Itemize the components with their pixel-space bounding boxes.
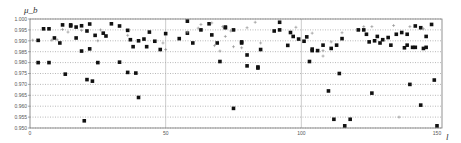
plus-marker	[341, 31, 344, 34]
square-marker	[93, 34, 97, 38]
square-marker	[126, 71, 130, 75]
plus-marker	[61, 28, 64, 31]
square-marker	[395, 32, 399, 36]
y-tick-label: 1.000	[14, 16, 27, 22]
square-marker	[145, 45, 149, 49]
square-marker	[386, 36, 390, 40]
y-axis: 0.9500.9550.9600.9650.9700.9750.9800.985…	[14, 16, 30, 131]
square-marker	[381, 38, 385, 42]
square-marker	[85, 78, 89, 82]
square-marker	[422, 47, 426, 51]
square-marker	[47, 61, 51, 65]
plus-marker	[80, 29, 83, 32]
square-marker	[340, 37, 344, 41]
plus-marker	[294, 26, 297, 29]
square-marker	[232, 107, 236, 111]
square-marker	[432, 78, 436, 82]
square-marker	[370, 91, 374, 95]
square-marker	[327, 89, 331, 93]
square-marker	[207, 22, 211, 26]
square-marker	[210, 33, 214, 37]
square-marker	[36, 39, 40, 43]
square-marker	[58, 41, 62, 45]
plus-marker	[254, 21, 257, 24]
square-marker	[137, 39, 141, 43]
plus-marker	[408, 25, 411, 28]
square-marker	[278, 28, 282, 32]
square-marker	[63, 72, 67, 76]
plus-marker	[99, 28, 102, 31]
square-marker	[365, 32, 369, 36]
square-marker	[110, 22, 114, 26]
square-marker	[389, 43, 393, 47]
plus-marker	[392, 24, 395, 27]
plus-marker	[246, 26, 249, 29]
square-marker	[286, 44, 290, 48]
square-marker	[74, 36, 78, 40]
plus-marker	[96, 39, 99, 42]
x-axis-title: l	[446, 132, 449, 142]
square-marker	[61, 23, 65, 27]
square-marker	[215, 41, 219, 45]
y-tick-label: 0.990	[14, 38, 27, 44]
square-marker	[343, 124, 347, 128]
square-marker	[308, 60, 312, 64]
square-marker	[335, 43, 339, 47]
scatter-chart: 0.9500.9550.9600.9650.9700.9750.9800.985…	[0, 0, 461, 143]
plus-marker	[240, 46, 243, 49]
square-marker	[82, 119, 86, 123]
y-tick-label: 0.980	[14, 59, 27, 65]
square-marker	[378, 41, 382, 45]
plus-marker	[370, 25, 373, 28]
square-marker	[47, 27, 51, 31]
square-marker	[310, 49, 314, 53]
square-marker	[153, 39, 157, 43]
y-tick-label: 0.995	[14, 27, 27, 33]
square-marker	[405, 32, 409, 36]
square-marker	[131, 45, 135, 49]
square-marker	[191, 41, 195, 45]
square-marker	[158, 48, 162, 52]
square-marker	[367, 40, 371, 44]
plus-marker	[311, 32, 314, 35]
square-marker	[118, 60, 122, 64]
square-marker	[134, 71, 138, 75]
square-marker	[321, 43, 325, 47]
square-marker	[224, 25, 228, 29]
x-axis: 050100150	[29, 130, 442, 136]
y-tick-label: 0.985	[14, 49, 27, 55]
square-marker	[291, 35, 295, 39]
square-marker	[118, 24, 122, 28]
x-tick-label: 100	[297, 130, 306, 136]
square-marker	[329, 47, 333, 51]
plus-marker	[232, 45, 235, 48]
square-marker	[411, 46, 415, 50]
square-marker	[177, 37, 181, 41]
x-tick-label: 0	[29, 130, 32, 136]
square-marker	[256, 65, 260, 69]
square-marker	[129, 38, 133, 42]
square-marker	[272, 29, 276, 33]
square-marker	[69, 24, 73, 28]
square-marker	[305, 35, 309, 39]
square-marker	[419, 103, 423, 107]
square-marker	[297, 37, 301, 41]
y-tick-label: 0.955	[14, 114, 27, 120]
square-marker	[278, 20, 282, 24]
square-marker	[316, 49, 320, 53]
square-marker	[53, 36, 57, 40]
plus-marker	[161, 41, 164, 44]
square-marker	[137, 96, 141, 100]
plus-marker	[398, 116, 401, 119]
square-marker	[245, 53, 249, 57]
square-marker	[126, 29, 130, 33]
y-tick-label: 0.950	[14, 125, 27, 131]
y-tick-label: 0.960	[14, 103, 27, 109]
square-marker	[408, 83, 412, 87]
square-marker	[302, 39, 306, 43]
square-marker	[259, 48, 263, 52]
plus-marker	[362, 25, 365, 28]
square-marker	[96, 61, 100, 65]
square-marker	[80, 24, 84, 28]
plus-marker	[164, 48, 167, 51]
